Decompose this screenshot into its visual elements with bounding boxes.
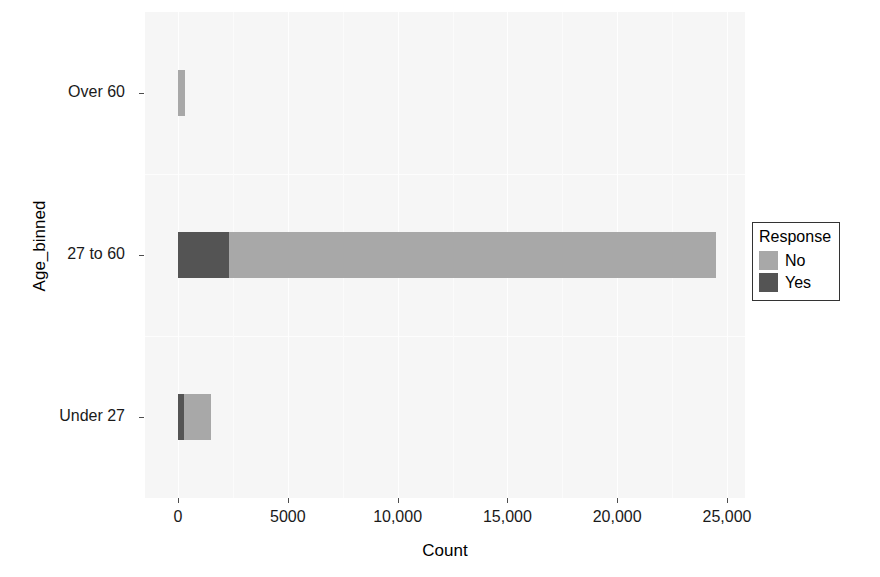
plot-panel (145, 12, 745, 498)
y-tick-label-under-27: Under 27 (59, 408, 125, 424)
x-tick-mark (617, 498, 618, 503)
y-tick-label-over-60: Over 60 (68, 84, 125, 100)
bar-group-under-27[interactable] (145, 394, 745, 440)
x-tick-mark (398, 498, 399, 503)
x-tick-mark (727, 498, 728, 503)
x-axis-title: Count (145, 541, 745, 561)
bar-segment-no[interactable] (184, 394, 211, 440)
legend: Response NoYes (752, 222, 840, 301)
x-tick-label-20000: 20,000 (593, 508, 642, 526)
x-tick-mark (178, 498, 179, 503)
legend-label-no: No (785, 253, 805, 269)
bar-group-over-60[interactable] (145, 70, 745, 116)
legend-title: Response (759, 228, 831, 246)
y-tick-label-27-to-60: 27 to 60 (67, 246, 125, 262)
y-tick-mark (139, 93, 144, 94)
legend-item-no[interactable]: No (759, 250, 831, 272)
legend-label-yes: Yes (785, 275, 811, 291)
x-tick-mark (507, 498, 508, 503)
bar-segment-no[interactable] (178, 70, 185, 116)
x-tick-mark (288, 498, 289, 503)
legend-swatch-no (759, 251, 778, 270)
x-tick-label-0: 0 (174, 508, 183, 526)
x-tick-label-5000: 5000 (270, 508, 306, 526)
bar-segment-no[interactable] (229, 232, 716, 278)
x-tick-label-10000: 10,000 (373, 508, 422, 526)
y-axis-tick-labels: Over 6027 to 60Under 27 (0, 12, 137, 498)
gridline-horizontal (145, 174, 745, 175)
y-tick-mark (139, 255, 144, 256)
gridline-horizontal (145, 336, 745, 337)
x-tick-label-25000: 25,000 (703, 508, 752, 526)
chart-figure: Age_binned Over 6027 to 60Under 27 05000… (0, 0, 880, 577)
bar-segment-yes[interactable] (178, 232, 229, 278)
legend-items: NoYes (759, 250, 831, 294)
bar-group-27-to-60[interactable] (145, 232, 745, 278)
y-tick-mark (139, 417, 144, 418)
x-tick-label-15000: 15,000 (483, 508, 532, 526)
legend-swatch-yes (759, 273, 778, 292)
legend-item-yes[interactable]: Yes (759, 272, 831, 294)
